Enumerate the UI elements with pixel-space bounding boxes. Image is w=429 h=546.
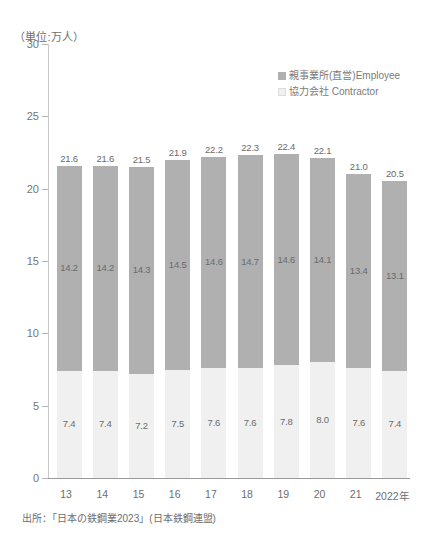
y-tick-mark <box>42 333 48 334</box>
bar-value-employee: 14.7 <box>238 256 263 267</box>
x-tick-label: 2022年 <box>368 488 416 503</box>
bar-segment-employee[interactable]: 14.2 <box>57 166 82 371</box>
y-tick-label: 5 <box>33 400 39 412</box>
bar-value-contractor: 7.4 <box>382 418 407 429</box>
bar-value-contractor: 7.8 <box>274 416 299 427</box>
bar-total-label: 22.1 <box>306 145 339 156</box>
bar-segment-employee[interactable]: 14.1 <box>310 158 335 362</box>
bar-value-contractor: 7.5 <box>165 418 190 429</box>
y-tick-mark <box>42 478 48 479</box>
bar-group[interactable]: 7.414.221.6 <box>93 166 118 478</box>
bar-value-contractor: 7.4 <box>57 418 82 429</box>
bar-value-contractor: 7.6 <box>346 417 371 428</box>
y-tick-mark <box>42 261 48 262</box>
bar-value-contractor: 8.0 <box>310 414 335 425</box>
bar-value-employee: 14.2 <box>93 262 118 273</box>
y-tick-label: 10 <box>27 327 39 339</box>
bar-segment-contractor[interactable]: 7.6 <box>238 368 263 478</box>
source-note: 出所：「日本の鉄鋼業2023」(日本鉄鋼連盟) <box>22 510 216 525</box>
bar-value-employee: 13.1 <box>382 270 407 281</box>
bar-value-employee: 14.3 <box>129 264 154 275</box>
bar-group[interactable]: 7.613.421.0 <box>346 174 371 478</box>
bar-segment-employee[interactable]: 14.2 <box>93 166 118 371</box>
bar-segment-employee[interactable]: 13.1 <box>382 181 407 371</box>
bar-group[interactable]: 7.414.221.6 <box>57 166 82 478</box>
bar-value-employee: 14.6 <box>201 256 226 267</box>
plot-area: 051015202530 7.414.221.67.414.221.67.214… <box>48 44 410 478</box>
y-tick-label: 30 <box>27 38 39 50</box>
y-tick-mark <box>42 44 48 45</box>
y-axis-unit-caption: （単位:万人） <box>14 28 84 44</box>
y-tick-label: 15 <box>27 255 39 267</box>
y-tick-mark <box>42 116 48 117</box>
bar-segment-contractor[interactable]: 7.6 <box>201 368 226 478</box>
bar-segment-contractor[interactable]: 8.0 <box>310 362 335 478</box>
bar-segment-employee[interactable]: 14.3 <box>129 167 154 374</box>
bar-value-contractor: 7.2 <box>129 420 154 431</box>
bar-segment-employee[interactable]: 14.6 <box>201 157 226 368</box>
bar-total-label: 22.3 <box>234 142 267 153</box>
bar-segment-contractor[interactable]: 7.4 <box>57 371 82 478</box>
bar-segment-employee[interactable]: 14.6 <box>274 154 299 365</box>
bar-group[interactable]: 7.614.622.2 <box>201 157 226 478</box>
bar-group[interactable]: 7.413.120.5 <box>382 181 407 478</box>
bar-segment-employee[interactable]: 14.5 <box>165 160 190 370</box>
bar-total-label: 21.9 <box>161 147 194 158</box>
y-tick-label: 20 <box>27 183 39 195</box>
bar-segment-employee[interactable]: 13.4 <box>346 174 371 368</box>
bar-value-contractor: 7.6 <box>201 417 226 428</box>
bar-value-employee: 14.5 <box>165 259 190 270</box>
bar-segment-contractor[interactable]: 7.8 <box>274 365 299 478</box>
bar-value-contractor: 7.4 <box>93 418 118 429</box>
y-tick-label: 25 <box>27 110 39 122</box>
bar-group[interactable]: 7.514.521.9 <box>165 160 190 478</box>
bar-group[interactable]: 8.014.122.1 <box>310 158 335 478</box>
bar-value-employee: 13.4 <box>346 265 371 276</box>
bar-total-label: 22.4 <box>270 141 303 152</box>
chart-root: （単位:万人） 親事業所(直営)Employee 協力会社 Contractor… <box>0 0 429 546</box>
bar-segment-contractor[interactable]: 7.6 <box>346 368 371 478</box>
y-axis-line <box>48 44 49 478</box>
bar-group[interactable]: 7.614.722.3 <box>238 155 263 478</box>
y-tick-mark <box>42 189 48 190</box>
bar-group[interactable]: 7.814.622.4 <box>274 154 299 478</box>
bar-segment-contractor[interactable]: 7.2 <box>129 374 154 478</box>
bar-total-label: 21.0 <box>342 161 375 172</box>
y-tick-mark <box>42 406 48 407</box>
bar-segment-contractor[interactable]: 7.4 <box>382 371 407 478</box>
bar-total-label: 21.6 <box>89 153 122 164</box>
bar-segment-contractor[interactable]: 7.4 <box>93 371 118 478</box>
y-tick-label: 0 <box>33 472 39 484</box>
bar-value-contractor: 7.6 <box>238 417 263 428</box>
bar-segment-contractor[interactable]: 7.5 <box>165 370 190 479</box>
bar-total-label: 22.2 <box>197 144 230 155</box>
bar-value-employee: 14.1 <box>310 254 335 265</box>
bar-group[interactable]: 7.214.321.5 <box>129 167 154 478</box>
bar-total-label: 20.5 <box>378 168 411 179</box>
bar-value-employee: 14.2 <box>57 262 82 273</box>
bar-total-label: 21.6 <box>53 153 86 164</box>
bar-segment-employee[interactable]: 14.7 <box>238 155 263 368</box>
x-axis-line <box>48 478 410 479</box>
bar-value-employee: 14.6 <box>274 254 299 265</box>
bar-total-label: 21.5 <box>125 154 158 165</box>
